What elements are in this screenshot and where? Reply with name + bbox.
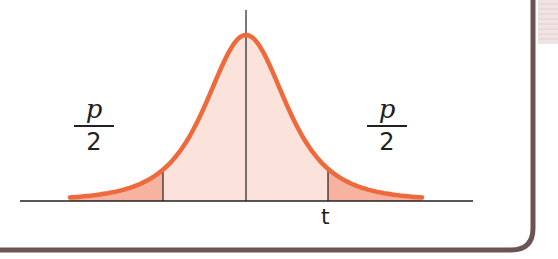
- left-tail-denominator: 2: [74, 129, 114, 155]
- critical-value-label: t: [321, 204, 330, 229]
- fraction-bar: [74, 125, 114, 127]
- left-tail-numerator: p: [74, 95, 114, 123]
- fraction-bar: [367, 125, 407, 127]
- left-tail-label: p 2: [74, 95, 114, 155]
- diagram-canvas: p 2 p 2 t: [0, 0, 558, 259]
- right-tail-denominator: 2: [367, 129, 407, 155]
- right-tail-label: p 2: [367, 95, 407, 155]
- corner-hatch-decoration: [538, 0, 558, 44]
- right-tail-numerator: p: [367, 95, 407, 123]
